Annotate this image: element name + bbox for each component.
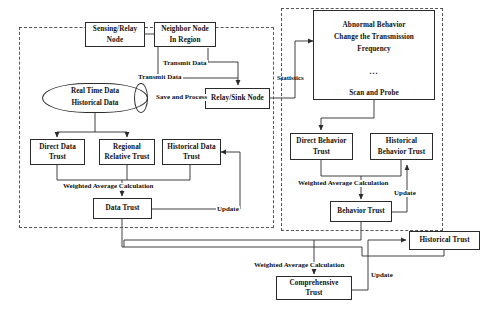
data-store-line2: Historical Data <box>72 98 119 110</box>
historical-trust-line1: Historical Trust <box>419 235 469 245</box>
edge-label-statistics: Statistics <box>276 75 305 82</box>
node-direct-data-trust[interactable]: Direct Data Trust <box>30 139 85 165</box>
edge-label-update-behavior: Update <box>393 190 417 197</box>
historical-data-trust-line2: Trust <box>183 152 200 162</box>
node-data-trust[interactable]: Data Trust <box>93 198 152 219</box>
node-neighbor-node-in-region[interactable]: Neighbor Node In Region <box>154 22 216 47</box>
node-sensing-relay-node[interactable]: Sensing/Relay Node <box>85 22 145 47</box>
historical-data-trust-line1: Historical Data <box>167 142 215 152</box>
edge-label-update-data: Update <box>216 206 240 213</box>
neighbor-node-line1: Neighbor Node <box>161 24 209 34</box>
node-historical-data-trust[interactable]: Historical Data Trust <box>162 139 221 165</box>
data-trust-line1: Data Trust <box>105 203 139 213</box>
edge-label-transmit-data-sensing: Transmit Data <box>137 74 183 81</box>
abnormal-behavior-line2: Change the Transmission <box>334 31 414 43</box>
edge-label-weighted-average-behavior: Weighted Average Calculation <box>297 180 389 187</box>
abnormal-behavior-line5: Scan and Probe <box>349 87 399 99</box>
direct-behavior-trust-line2: Trust <box>313 147 330 157</box>
edge-comprehensive-update <box>352 240 406 290</box>
data-store-line1: Real Time Data <box>71 86 119 98</box>
comprehensive-trust-line2: Trust <box>305 288 322 298</box>
relay-sink-node-line1: Relay/Sink Node <box>211 93 264 103</box>
direct-data-trust-line1: Direct Data <box>39 142 76 152</box>
node-historical-behavior-trust[interactable]: Historical Behavior Trust <box>370 133 433 160</box>
neighbor-node-line2: In Region <box>169 35 200 45</box>
edge-label-transmit-data-neighbor: Transmit Data <box>162 60 208 67</box>
edge-label-save-and-process: Save and Process <box>155 94 208 101</box>
node-comprehensive-trust[interactable]: Comprehensive Trust <box>276 276 352 300</box>
node-historical-trust[interactable]: Historical Trust <box>409 231 480 250</box>
cylinder-cap <box>134 83 148 113</box>
edge-label-weighted-average-data: Weighted Average Calculation <box>62 183 154 190</box>
historical-behavior-trust-line1: Historical <box>386 136 417 146</box>
node-relay-sink-node[interactable]: Relay/Sink Node <box>205 88 270 109</box>
node-regional-relative-trust[interactable]: Regional Relative Trust <box>99 139 155 165</box>
historical-behavior-trust-line2: Behavior Trust <box>378 147 426 157</box>
abnormal-behavior-line3: Frequency <box>357 43 391 55</box>
diagram-canvas: Sensing/Relay Node Neighbor Node In Regi… <box>0 0 490 313</box>
regional-relative-trust-line1: Regional <box>113 142 141 152</box>
edge-label-update-comprehensive: Update <box>370 272 394 279</box>
node-abnormal-behavior[interactable]: Abnormal Behavior Change the Transmissio… <box>313 10 435 100</box>
sensing-relay-node-line2: Node <box>107 35 123 45</box>
sensing-relay-node-line1: Sensing/Relay <box>93 24 137 34</box>
node-data-store[interactable]: Real Time Data Historical Data <box>42 83 148 113</box>
node-direct-behavior-trust[interactable]: Direct Behavior Trust <box>290 133 353 160</box>
node-behavior-trust[interactable]: Behavior Trust <box>330 201 392 222</box>
comprehensive-trust-line1: Comprehensive <box>289 278 338 288</box>
behavior-trust-line1: Behavior Trust <box>337 206 385 216</box>
edge-label-weighted-average-comprehensive: Weighted Average Calculation <box>253 262 345 269</box>
abnormal-behavior-ellipsis: ... <box>370 65 379 79</box>
regional-relative-trust-line2: Relative Trust <box>105 152 150 162</box>
direct-behavior-trust-line1: Direct Behavior <box>296 136 346 146</box>
direct-data-trust-line2: Trust <box>49 152 66 162</box>
abnormal-behavior-line1: Abnormal Behavior <box>343 19 406 31</box>
